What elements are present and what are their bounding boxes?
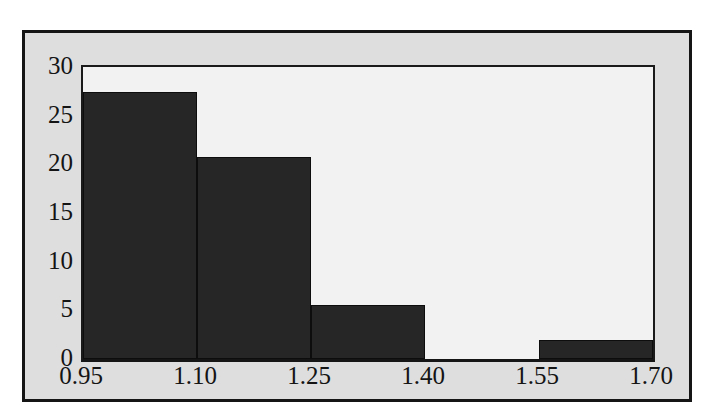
x-tick-label: 0.95 xyxy=(59,363,103,388)
y-tick-label: 5 xyxy=(61,296,74,321)
y-tick-label: 30 xyxy=(48,53,73,78)
histogram-bar xyxy=(539,340,653,359)
figure-frame: 051015202530 0.951.101.251.401.551.70 xyxy=(22,30,692,402)
x-tick-label: 1.70 xyxy=(629,363,673,388)
histogram-bar xyxy=(197,157,311,359)
y-tick-label: 15 xyxy=(48,199,73,224)
x-tick-label: 1.55 xyxy=(515,363,559,388)
x-tick-label: 1.25 xyxy=(287,363,331,388)
histogram-bar xyxy=(83,92,197,359)
x-axis: 0.951.101.251.401.551.70 xyxy=(25,363,689,403)
x-tick-label: 1.40 xyxy=(401,363,445,388)
histogram-bar xyxy=(311,305,425,359)
y-tick-label: 25 xyxy=(48,101,73,126)
histogram-bars xyxy=(83,67,653,359)
y-tick-label: 20 xyxy=(48,150,73,175)
x-tick-label: 1.10 xyxy=(173,363,217,388)
y-tick-label: 10 xyxy=(48,247,73,272)
y-axis: 051015202530 xyxy=(25,33,81,399)
plot-area xyxy=(81,65,655,362)
